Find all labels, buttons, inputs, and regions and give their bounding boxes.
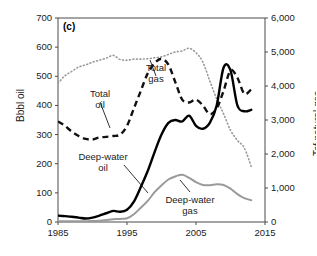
y-tick-label-left: 300 [18, 129, 52, 140]
series-annotation: Totalgas [124, 63, 188, 84]
annotation-line-2: oil [68, 100, 132, 111]
series-annotation: Deep-watergas [158, 195, 222, 216]
y-tick-label-left: 100 [18, 187, 52, 198]
annotation-line-2: gas [158, 206, 222, 217]
figure-panel-c: (c) Bbbl oil Tcf natural gas 01002003004… [0, 0, 316, 256]
series-annotation: Totaloil [68, 89, 132, 110]
y-tick-label-left: 600 [18, 41, 52, 52]
y-tick-label-right: 6,000 [271, 12, 311, 23]
y-axis-title-right: Tcf natural gas [312, 79, 317, 169]
y-tick-label-right: 1,000 [271, 182, 311, 193]
y-tick-label-left: 700 [18, 12, 52, 23]
annotation-line-1: Deep-water [158, 195, 222, 206]
annotation-line-1: Total [68, 89, 132, 100]
y-tick-label-left: 400 [18, 99, 52, 110]
x-tick-label: 1985 [38, 227, 78, 238]
annotation-line-1: Total [124, 63, 188, 74]
y-tick-label-right: 4,000 [271, 80, 311, 91]
annotation-line-2: gas [124, 74, 188, 85]
x-tick-label: 1995 [107, 227, 147, 238]
y-tick-label-left: 200 [18, 158, 52, 169]
series-line-deep-water-gas [58, 175, 251, 222]
y-tick-label-right: 5,000 [271, 46, 311, 57]
series-annotation: Deep-wateroil [71, 152, 135, 173]
x-tick-label: 2015 [245, 227, 285, 238]
y-tick-label-left: 500 [18, 70, 52, 81]
y-tick-label-right: 2,000 [271, 148, 311, 159]
panel-label: (c) [63, 21, 75, 32]
y-tick-label-left: 0 [18, 216, 52, 227]
y-tick-label-right: 0 [271, 216, 311, 227]
series-line-deep-water-oil [58, 64, 251, 218]
annotation-line-2: oil [71, 163, 135, 174]
annotation-line-1: Deep-water [71, 152, 135, 163]
x-tick-label: 2005 [176, 227, 216, 238]
y-tick-label-right: 3,000 [271, 114, 311, 125]
